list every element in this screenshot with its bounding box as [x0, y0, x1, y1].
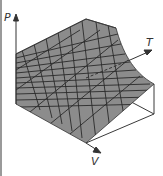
t-axis-label: T — [146, 36, 154, 49]
v-axis-label: V — [91, 155, 100, 168]
pvt-surface-diagram: P T V — [0, 0, 163, 176]
p-axis-arrow-icon — [14, 14, 19, 21]
p-axis-label: P — [4, 11, 11, 24]
v-axis — [86, 143, 101, 153]
t-axis-arrow-icon — [144, 50, 152, 55]
